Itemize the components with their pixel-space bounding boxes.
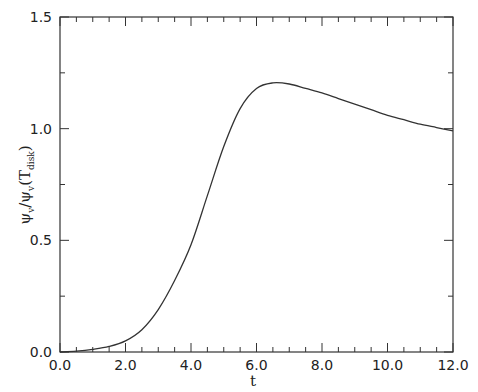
x-tick-label: 4.0 bbox=[180, 357, 202, 373]
x-tick-label: 0.0 bbox=[49, 357, 71, 373]
plot-frame bbox=[60, 17, 453, 352]
x-axis-tick-labels: 0.02.04.06.08.010.012.0 bbox=[49, 357, 469, 373]
series-line bbox=[60, 83, 453, 352]
x-tick-label: 12.0 bbox=[437, 357, 468, 373]
y-tick-label: 1.5 bbox=[30, 9, 52, 25]
y-tick-label: 0.0 bbox=[30, 344, 52, 360]
y-tick-label: 0.5 bbox=[30, 232, 52, 248]
line-chart: 0.02.04.06.08.010.012.0 0.00.51.01.5 t ψ… bbox=[0, 0, 478, 392]
x-tick-label: 10.0 bbox=[372, 357, 403, 373]
x-axis-label: t bbox=[250, 372, 256, 390]
x-tick-label: 6.0 bbox=[245, 357, 267, 373]
x-tick-label: 2.0 bbox=[114, 357, 136, 373]
y-tick-label: 1.0 bbox=[30, 121, 52, 137]
x-axis-ticks bbox=[60, 17, 453, 352]
x-tick-label: 8.0 bbox=[311, 357, 333, 373]
svg-text:ψv/ψv(Tdisk): ψv/ψv(Tdisk) bbox=[16, 145, 36, 224]
y-axis-ticks bbox=[60, 17, 453, 352]
y-axis-label: ψv/ψv(Tdisk) bbox=[16, 145, 36, 224]
